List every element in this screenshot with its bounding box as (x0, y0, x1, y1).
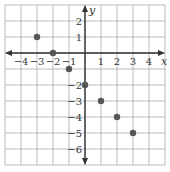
y-tick-label: −2 (67, 80, 82, 91)
y-tick-label: 2 (76, 16, 82, 27)
y-axis-up-arrow-icon (82, 5, 88, 12)
x-tick-label: −3 (30, 56, 45, 67)
x-tick-label: −1 (62, 56, 77, 67)
x-tick-label: 3 (130, 56, 136, 67)
y-tick-label: −4 (67, 112, 82, 123)
x-tick-label: 1 (98, 56, 104, 67)
data-point (50, 50, 56, 56)
data-point (66, 66, 72, 72)
x-tick-label: −2 (46, 56, 61, 67)
coordinate-plane: −4−3−2−1123421−2−3−4−5−6 x y (0, 0, 170, 172)
data-point (34, 34, 40, 40)
y-axis-down-arrow-icon (82, 158, 88, 165)
y-tick-label: 1 (76, 32, 82, 43)
x-tick-label: 2 (114, 56, 120, 67)
x-axis-left-arrow-icon (5, 50, 12, 56)
data-point (98, 98, 104, 104)
y-tick-label: −3 (67, 96, 82, 107)
x-tick-label: 4 (146, 56, 152, 67)
y-tick-label: −5 (67, 128, 82, 139)
y-tick-label: −6 (67, 144, 82, 155)
y-axis-label: y (88, 4, 96, 17)
x-tick-label: −4 (14, 56, 29, 67)
data-point (82, 82, 88, 88)
data-point (114, 114, 120, 120)
x-axis-label: x (161, 55, 168, 68)
data-point (130, 130, 136, 136)
